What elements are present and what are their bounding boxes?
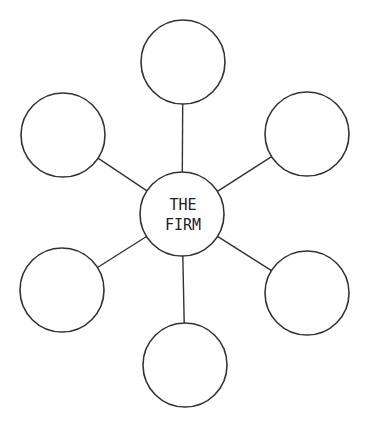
center-label-line-1: THE bbox=[169, 196, 196, 214]
center-label-line-2: FIRM bbox=[165, 216, 201, 234]
satellite-circle-lower-left bbox=[20, 248, 104, 332]
satellite-circle-upper-left bbox=[21, 93, 105, 177]
firm-hub-diagram: THE FIRM bbox=[0, 0, 370, 432]
connector-line-lower-left bbox=[98, 237, 147, 268]
satellite-circle-bottom bbox=[143, 323, 227, 407]
center-node: THE FIRM bbox=[140, 172, 224, 256]
connector-line-upper-right bbox=[217, 157, 271, 192]
satellite-circle-top bbox=[141, 20, 225, 104]
center-circle bbox=[140, 172, 224, 256]
satellite-circle-upper-right bbox=[265, 92, 349, 176]
connector-line-bottom bbox=[183, 256, 184, 323]
connector-line-upper-left bbox=[98, 158, 147, 191]
satellite-circle-lower-right bbox=[265, 251, 349, 335]
connector-line-lower-right bbox=[218, 236, 272, 270]
